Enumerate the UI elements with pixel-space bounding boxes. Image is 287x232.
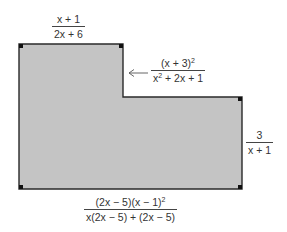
right-numerator: 3 bbox=[255, 129, 265, 141]
bottom-numerator-main: (2x − 5)(x − 1) bbox=[96, 196, 162, 208]
figure-body bbox=[19, 44, 242, 189]
top-side-label: x + 1 2x + 6 bbox=[52, 13, 85, 40]
fraction-bar bbox=[84, 209, 177, 210]
top-numerator: x + 1 bbox=[55, 13, 82, 25]
bottom-denominator: x(2x − 5) + (2x − 5) bbox=[84, 211, 177, 223]
fraction-bar bbox=[151, 70, 205, 71]
right-denominator: x + 1 bbox=[246, 144, 273, 156]
notch-denominator: x2 + 2x + 1 bbox=[151, 72, 205, 84]
notch-numerator: (x + 3)2 bbox=[159, 57, 197, 69]
fraction-bar bbox=[52, 26, 85, 27]
bottom-numerator-exponent: 2 bbox=[162, 196, 166, 203]
notch-numerator-base: (x + 3) bbox=[161, 57, 191, 69]
notch-numerator-exponent: 2 bbox=[191, 57, 195, 64]
right-side-label: 3 x + 1 bbox=[246, 129, 273, 156]
top-denominator: 2x + 6 bbox=[52, 28, 85, 40]
bottom-side-label: (2x − 5)(x − 1)2 x(2x − 5) + (2x − 5) bbox=[84, 196, 177, 223]
notch-denominator-rest: + 2x + 1 bbox=[162, 72, 203, 84]
fraction-bar bbox=[246, 142, 273, 143]
notch-side-label: (x + 3)2 x2 + 2x + 1 bbox=[151, 57, 205, 84]
arrow-left-icon bbox=[127, 68, 149, 78]
bottom-numerator: (2x − 5)(x − 1)2 bbox=[94, 196, 168, 208]
